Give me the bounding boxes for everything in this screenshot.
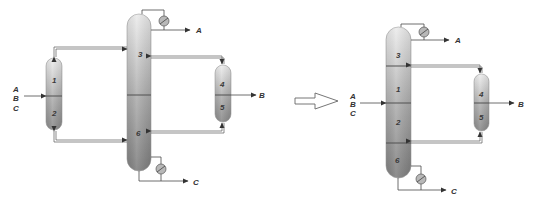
side-link-bottom-left [151,123,224,133]
svg-text:A: A [12,85,19,94]
process-diagram: 3 6 1 2 4 5 A B C [0,0,538,204]
side-link-top-right [411,65,482,73]
feed-right: A B C [349,92,386,118]
side-link-bottom-right [411,132,482,143]
section-label: 4 [478,90,484,99]
svg-text:A: A [195,26,202,35]
section-label: 2 [395,118,401,127]
section-label: 3 [396,51,401,60]
section-label: 3 [138,50,143,59]
section-label: 4 [219,80,225,89]
section-label: 1 [52,76,57,85]
svg-text:C: C [13,104,19,113]
liquid-link-bottom-left [54,131,127,142]
svg-text:C: C [193,178,199,187]
svg-text:B: B [13,94,19,103]
section-label: 5 [220,103,225,112]
section-label: 6 [136,129,141,138]
transform-arrow-icon [295,93,338,109]
svg-text:A: A [454,36,461,45]
left-diagram: 3 6 1 2 4 5 A B C [12,10,265,187]
vapor-link-top-left [54,47,127,57]
section-label: 5 [479,113,484,122]
svg-text:C: C [451,187,457,196]
section-label: 1 [396,85,401,94]
feed-left: A B C [12,85,46,113]
prefractionator-left: 1 2 [46,58,62,130]
svg-text:B: B [350,100,356,109]
section-label: 2 [51,109,57,118]
svg-text:B: B [259,91,265,100]
main-column-right: 3 1 2 6 [386,27,411,178]
svg-text:B: B [518,100,524,109]
product-b-left: B [231,91,265,100]
side-column-left: 4 5 [215,65,231,122]
right-diagram: 3 1 2 6 4 5 A B C [349,24,524,196]
svg-text:C: C [350,109,356,118]
main-column-left: 3 6 [127,14,151,171]
section-label: 6 [395,156,400,165]
side-column-right: 4 5 [474,74,489,131]
side-link-top-left [151,56,224,64]
product-b-right: B [489,100,524,109]
